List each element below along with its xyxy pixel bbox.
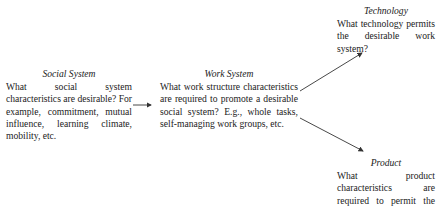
node-text: What social system characteristics are d… (6, 81, 132, 142)
node-product: Product What product characteristics are… (337, 157, 435, 209)
node-technology: Technology What technology permits the d… (337, 5, 435, 55)
node-text: What technology permits the desirable wo… (337, 18, 435, 55)
node-text: What work structure characteristics are … (160, 81, 298, 130)
node-work-system: Work System What work structure characte… (160, 68, 298, 130)
arrow-work-to-technology (300, 53, 362, 91)
node-title: Product (337, 157, 435, 169)
node-title: Technology (337, 5, 435, 17)
node-title: Work System (160, 68, 298, 80)
node-text: What product characteristics are require… (337, 170, 435, 209)
node-title: Social System (6, 68, 132, 80)
arrow-work-to-product (300, 118, 363, 151)
node-social-system: Social System What social system charact… (6, 68, 132, 142)
